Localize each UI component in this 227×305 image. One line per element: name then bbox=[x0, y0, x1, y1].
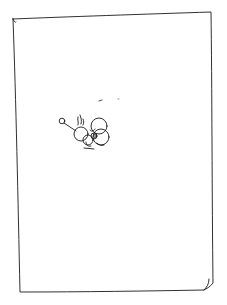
sketch-drawing bbox=[0, 0, 227, 305]
sketch-canvas: Hand-drawn pencil sketch on white paper:… bbox=[0, 0, 227, 305]
creature-doodle bbox=[59, 115, 109, 149]
page-border bbox=[13, 12, 213, 292]
